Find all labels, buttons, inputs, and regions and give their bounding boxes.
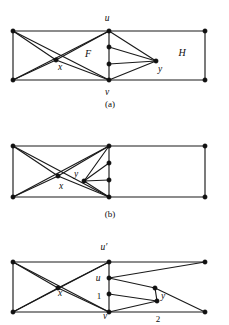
vertex-label-a-u: u	[105, 13, 110, 23]
figure-root: uvxyFH(a)xy(b)u′uvxy12	[0, 0, 229, 325]
node-b-y	[82, 179, 86, 183]
edge-c-x-v	[58, 288, 109, 312]
node-a-bottom-left	[11, 78, 15, 82]
vertex-label-a-x: x	[57, 62, 63, 72]
node-c-mid-upper-right	[153, 286, 157, 290]
edge-b-y-v	[84, 181, 109, 197]
edge-b-y-u	[84, 146, 109, 181]
edges-layer	[13, 31, 205, 312]
edge-c-y-v	[109, 301, 157, 312]
node-b-u	[107, 144, 111, 148]
node-b-top-right	[203, 144, 207, 148]
vertex-label-a-y: y	[157, 64, 163, 74]
node-a-top-left	[11, 29, 15, 33]
edge-a-mid-upper-y	[109, 47, 156, 61]
vertex-label-c-x: x	[57, 288, 63, 298]
graph-figure-canvas: uvxyFH(a)xy(b)u′uvxy12	[0, 0, 229, 325]
edge-b-y-mid-upper	[84, 163, 109, 181]
vertex-label-c-u: u	[96, 273, 101, 283]
node-c-one	[107, 292, 111, 296]
edge-b-y-mid-lower	[84, 180, 109, 181]
edge-a-x-v	[56, 60, 109, 80]
number-label-c-one: 1	[97, 291, 102, 301]
node-c-top-right	[203, 260, 207, 264]
number-label-c-two: 2	[156, 314, 161, 324]
node-b-x	[56, 174, 60, 178]
edge-b-top-left-x	[13, 146, 58, 176]
vertex-label-a-v: v	[105, 87, 110, 97]
node-b-mid-upper	[107, 161, 111, 165]
node-c-v	[107, 310, 111, 314]
labels-layer: uvxyFH(a)xy(b)u′uvxy12	[57, 13, 186, 324]
node-a-bottom-right	[203, 78, 207, 82]
node-b-mid-lower	[107, 178, 111, 182]
edge-a-u-y	[109, 31, 156, 61]
node-b-v	[107, 195, 111, 199]
node-a-top-right	[203, 29, 207, 33]
panel-caption-b: (b)	[105, 209, 116, 219]
region-label-a-H: H	[177, 47, 186, 58]
node-a-mid-lower	[107, 62, 111, 66]
node-c-top-left	[11, 260, 15, 264]
node-a-mid-upper	[107, 45, 111, 49]
vertex-label-c-u-prime: u′	[101, 242, 109, 252]
edge-c-u-mid-upper-right	[109, 278, 155, 288]
node-a-v	[107, 78, 111, 82]
node-a-u	[107, 29, 111, 33]
edge-c-x-u-prime	[58, 262, 109, 288]
node-b-bottom-left	[11, 195, 15, 199]
node-c-u	[107, 276, 111, 280]
vertex-label-b-x: x	[58, 181, 64, 191]
region-label-a-F: F	[84, 48, 92, 59]
edge-c-u-top-right	[109, 262, 205, 278]
edge-a-top-left-x	[13, 31, 56, 60]
node-c-y	[155, 299, 159, 303]
vertex-label-b-y: y	[73, 169, 79, 179]
node-b-top-left	[11, 144, 15, 148]
node-b-bottom-right	[203, 195, 207, 199]
edge-b-x-u	[58, 146, 109, 176]
node-c-bottom-left	[11, 310, 15, 314]
edge-c-one-y	[109, 294, 157, 301]
vertex-label-c-y: y	[160, 291, 166, 301]
node-a-y	[154, 59, 158, 63]
panel-caption-a: (a)	[105, 99, 115, 109]
node-c-bottom-right	[203, 310, 207, 314]
node-c-u-prime	[107, 260, 111, 264]
